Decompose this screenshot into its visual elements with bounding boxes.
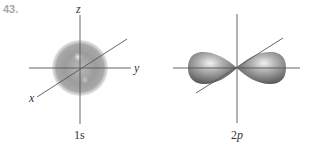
z-axis-label: z bbox=[75, 2, 81, 16]
y-axis-label: y bbox=[133, 61, 140, 75]
orbital-figure: z y x 1s 2p bbox=[0, 0, 336, 143]
sphere-highlight bbox=[73, 52, 83, 62]
orbital-1s-diagram: z y x 1s bbox=[28, 2, 140, 142]
x-axis-label: x bbox=[28, 91, 35, 105]
caption-1s: 1s bbox=[74, 128, 85, 142]
caption-2p: 2p bbox=[231, 128, 243, 142]
orbital-2p-diagram: 2p bbox=[173, 14, 300, 142]
